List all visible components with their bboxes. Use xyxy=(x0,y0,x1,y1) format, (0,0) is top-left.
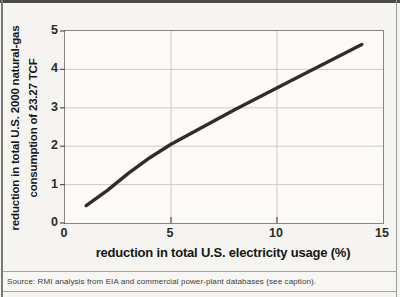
chart-figure: reduction in total U.S. 2000 natural-gas… xyxy=(0,0,400,297)
data-line xyxy=(86,44,362,205)
x-axis-tick-labels: 051015 xyxy=(64,226,382,242)
right-border-rule xyxy=(396,0,397,297)
y-tick-label: 2 xyxy=(40,138,58,153)
y-tick-label: 1 xyxy=(40,177,58,192)
x-axis-title: reduction in total U.S. electricity usag… xyxy=(54,245,392,260)
x-tick-label: 5 xyxy=(156,226,184,241)
x-tick-label: 10 xyxy=(262,226,290,241)
top-border-rule xyxy=(0,0,400,3)
y-tick-label: 3 xyxy=(40,100,58,115)
plot-area xyxy=(64,30,384,224)
y-tick-label: 4 xyxy=(40,61,58,76)
x-tick-label: 15 xyxy=(368,226,396,241)
y-axis-title: reduction in total U.S. 2000 natural-gas… xyxy=(6,0,44,258)
y-axis-tick-labels: 012345 xyxy=(40,30,58,222)
x-tick-label: 0 xyxy=(50,226,78,241)
y-axis-title-line1: reduction in total U.S. 2000 natural-gas xyxy=(6,0,24,258)
y-tick-label: 5 xyxy=(40,23,58,38)
source-bar: Source: RMI analysis from EIA and commer… xyxy=(3,271,396,292)
left-border-rule xyxy=(1,0,3,297)
plot-svg xyxy=(65,31,383,223)
source-text: Source: RMI analysis from EIA and commer… xyxy=(3,277,316,286)
